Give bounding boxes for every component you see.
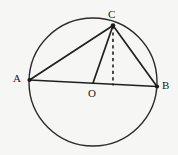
point-marker-a [27, 78, 31, 82]
point-label-o: O [88, 88, 96, 99]
point-label-b: B [162, 80, 169, 91]
segment-oc [93, 26, 113, 84]
segment-ac [30, 26, 114, 81]
point-label-c: C [108, 9, 115, 20]
point-marker-c [111, 23, 116, 28]
geometry-figure: A B C O [0, 0, 178, 155]
point-label-a: A [13, 73, 21, 84]
segment-cb [113, 26, 157, 87]
geometry-canvas [0, 0, 178, 155]
point-marker-b [155, 84, 159, 88]
